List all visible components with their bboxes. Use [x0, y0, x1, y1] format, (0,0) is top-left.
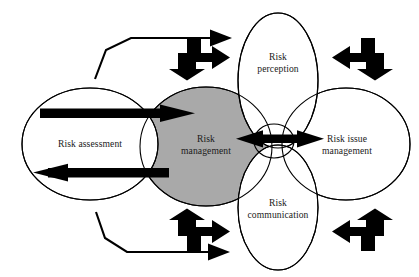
connector-top-left-bent	[169, 38, 230, 81]
ellipse-risk-assessment	[22, 88, 158, 200]
connector-bottom-left-elbow	[96, 212, 230, 261]
risk-framework-diagram: Risk assessment Risk management Risk per…	[0, 0, 419, 277]
diagram-canvas	[0, 0, 419, 277]
connector-bottom-right-bent	[332, 209, 393, 252]
connector-top-right-bent	[332, 38, 393, 81]
connector-bottom-left-bent	[169, 209, 230, 252]
